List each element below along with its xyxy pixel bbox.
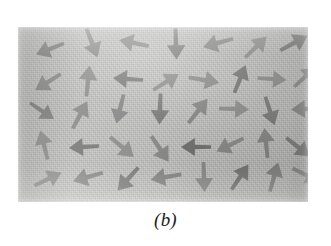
dipole-arrow <box>166 28 186 60</box>
dipole-arrow <box>224 160 256 195</box>
dipole-arrow <box>112 69 143 89</box>
dipole-arrow <box>181 93 215 129</box>
dipole-arrow <box>257 94 283 128</box>
dipole-arrow-layer <box>18 27 308 202</box>
dipole-arrow <box>276 28 308 59</box>
dipole-arrow <box>187 68 221 92</box>
dipole-arrow <box>71 164 106 190</box>
dipole-arrow <box>219 99 250 118</box>
dipole-arrow <box>65 97 96 133</box>
dipole-arrow <box>31 164 66 193</box>
dipole-arrow <box>77 65 99 98</box>
figure-caption: (b) <box>0 209 331 231</box>
dipole-arrow <box>78 27 106 61</box>
dipole-arrow <box>25 96 59 127</box>
dipole-arrow <box>149 165 183 189</box>
dipole-arrow <box>150 93 170 125</box>
dipole-arrow <box>32 128 57 161</box>
dipole-arrow <box>226 62 254 97</box>
figure-b: (b) <box>0 0 331 246</box>
dipole-arrow <box>288 61 308 93</box>
dipole-arrow-canvas <box>18 27 308 202</box>
dipole-arrow <box>201 30 236 56</box>
photograph-plate <box>18 27 308 202</box>
dipole-arrow <box>144 131 177 167</box>
dipole-arrow <box>239 30 273 64</box>
dipole-arrow <box>213 130 248 159</box>
dipole-arrow <box>33 35 68 63</box>
dipole-arrow <box>111 161 146 196</box>
dipole-arrow <box>68 137 99 157</box>
dipole-arrow <box>261 160 287 194</box>
dipole-arrow <box>257 69 287 88</box>
dipole-arrow <box>31 66 66 97</box>
dipole-arrow <box>289 160 308 189</box>
dipole-arrow <box>108 92 133 125</box>
dipole-arrow <box>104 130 140 164</box>
dipole-arrow <box>149 66 184 97</box>
dipole-arrow <box>291 99 308 118</box>
dipole-arrow <box>255 127 276 159</box>
dipole-arrow <box>117 31 150 55</box>
dipole-arrow <box>181 138 211 156</box>
dipole-arrow <box>194 162 213 193</box>
dipole-arrow <box>281 131 308 164</box>
